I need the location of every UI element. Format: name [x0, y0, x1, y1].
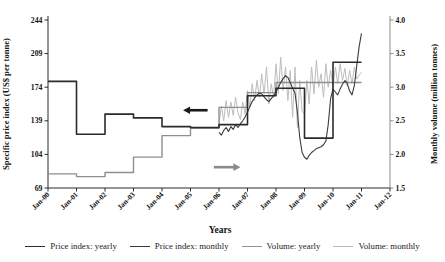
price-volume-chart-figure: 691041391742092441.52.02.53.03.54.0Jan-0…: [0, 0, 445, 262]
price-yearly-line-swatch: [25, 246, 45, 247]
right-axis-tick-label: 2.5: [396, 116, 406, 125]
right-axis-tick-label: 2.0: [396, 150, 406, 159]
left-axis-tick-label: 69: [35, 184, 43, 193]
legend-label-price-monthly: Price index: monthly: [155, 241, 229, 251]
right-axis-tick-label: 3.0: [396, 83, 406, 92]
x-axis-tick-label: Jan-10: [315, 190, 337, 212]
volume-axis-arrow-head: [233, 163, 240, 171]
series-price-index-yearly: [48, 62, 362, 138]
volume-yearly-line-swatch: [242, 246, 262, 247]
x-axis-tick-label: Jan-12: [372, 190, 394, 212]
x-axis-tick-label: Jan-05: [172, 190, 194, 212]
x-axis-tick-label: Jan-01: [58, 190, 80, 212]
legend-item-price-yearly: Price index: yearly: [25, 241, 116, 251]
x-axis-tick-label: Jan-00: [30, 190, 52, 212]
series-volume-monthly: [219, 57, 362, 128]
legend-label-price-yearly: Price index: yearly: [50, 241, 116, 251]
volume-monthly-line-swatch: [333, 246, 353, 247]
left-axis-tick-label: 209: [31, 49, 43, 58]
x-axis-tick-label: Jan-11: [344, 190, 366, 212]
left-axis-tick-label: 104: [31, 150, 43, 159]
right-axis-tick-label: 4.0: [396, 16, 406, 25]
x-axis-title: Years: [0, 225, 440, 235]
legend-label-volume-monthly: Volume: monthly: [358, 241, 419, 251]
x-axis-tick-label: Jan-03: [115, 190, 137, 212]
left-axis-tick-label: 244: [31, 16, 43, 25]
right-axis-title: Monthly volume (million tonnes): [429, 44, 439, 164]
left-axis-tick-label: 174: [31, 83, 43, 92]
x-axis-tick-label: Jan-08: [258, 190, 280, 212]
legend-item-price-monthly: Price index: monthly: [130, 241, 229, 251]
right-axis-tick-label: 3.5: [396, 49, 406, 58]
x-axis-tick-label: Jan-09: [286, 190, 308, 212]
right-axis-tick-label: 1.5: [396, 184, 406, 193]
left-axis-tick-label: 139: [31, 116, 43, 125]
x-axis-tick-label: Jan-02: [87, 190, 109, 212]
legend-label-volume-yearly: Volume: yearly: [267, 241, 321, 251]
legend-item-volume-yearly: Volume: yearly: [242, 241, 321, 251]
x-axis-tick-label: Jan-06: [201, 190, 223, 212]
price-monthly-line-swatch: [130, 246, 150, 247]
x-axis-tick-label: Jan-07: [229, 190, 251, 212]
legend-item-volume-monthly: Volume: monthly: [333, 241, 419, 251]
price-axis-arrow-head: [183, 106, 190, 114]
left-and-bottom-axis: [48, 16, 390, 188]
x-axis-tick-label: Jan-04: [144, 190, 166, 212]
series-volume-yearly: [48, 83, 362, 177]
chart-legend: Price index: yearly Price index: monthly…: [0, 241, 445, 251]
series-price-index-monthly: [219, 33, 362, 159]
chart-plot-area: 691041391742092441.52.02.53.03.54.0Jan-0…: [0, 0, 445, 230]
left-axis-title: Specific price index (US$ per tonne): [1, 38, 11, 170]
